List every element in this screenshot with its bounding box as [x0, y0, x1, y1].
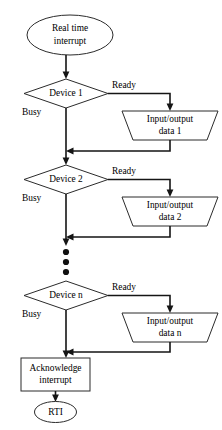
start-terminator-label-line2: interrupt	[54, 36, 87, 46]
ellipsis-dot-2	[63, 259, 69, 265]
process-label-line1: Acknowledge	[29, 363, 81, 373]
connector-ready-2	[108, 180, 170, 193]
arrowhead-io-return-1	[66, 148, 74, 155]
process-label-line2: interrupt	[39, 375, 72, 385]
arrowhead-busy-1-to-device2	[63, 158, 70, 166]
end-terminator-label: RTI	[48, 407, 63, 417]
ellipsis-dot-3	[63, 269, 69, 275]
decision-label-device-2: Device 2	[49, 174, 83, 184]
decision-label-device-1: Device 1	[49, 88, 83, 98]
arrowhead-start-to-device1	[63, 72, 70, 80]
io-label-2-line1: Input/output	[147, 200, 194, 210]
arrowhead-ready-2	[167, 190, 174, 198]
io-label-n-line1: Input/output	[147, 316, 194, 326]
io-label-n-line2: data n	[159, 328, 182, 338]
edge-label-ready-1: Ready	[112, 80, 136, 90]
edge-label-busy-2: Busy	[22, 193, 42, 203]
arrowhead-busy-2-to-ellipsis	[63, 239, 70, 247]
connector-io-return-1	[71, 140, 170, 151]
edge-label-busy-1: Busy	[22, 107, 42, 117]
arrowhead-busy-n-to-acknowledge	[63, 351, 70, 359]
decision-label-device-n: Device n	[49, 290, 83, 300]
io-label-2-line2: data 2	[159, 212, 182, 222]
edge-label-busy-n: Busy	[22, 309, 42, 319]
arrowhead-ready-1	[167, 104, 174, 112]
connector-io-return-n	[71, 342, 170, 352]
connector-io-return-2	[71, 226, 170, 237]
io-label-1-line1: Input/output	[147, 114, 194, 124]
flowchart-canvas: Real time interrupt Device 1 Ready Busy …	[0, 0, 222, 430]
vertical-ellipsis-dots	[63, 249, 69, 275]
connector-ready-1	[108, 94, 170, 107]
edge-label-ready-2: Ready	[112, 166, 136, 176]
flowchart-diagram: Real time interrupt Device 1 Ready Busy …	[0, 0, 222, 430]
ellipsis-dot-1	[63, 249, 69, 255]
arrowhead-acknowledge-to-rti	[52, 395, 59, 403]
start-terminator-label-line1: Real time	[52, 23, 88, 33]
edge-label-ready-n: Ready	[112, 282, 136, 292]
io-label-1-line2: data 1	[159, 126, 182, 136]
arrowhead-ready-n	[167, 306, 174, 314]
connector-ready-n	[108, 296, 170, 309]
start-terminator-ellipse	[27, 15, 113, 55]
